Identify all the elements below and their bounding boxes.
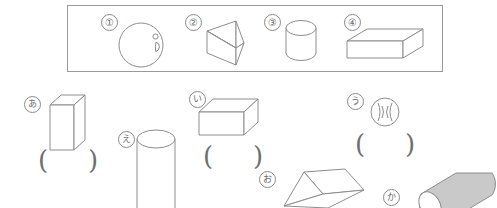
question-label-e[interactable]: え xyxy=(118,131,135,148)
answer-paren-open-a: ( xyxy=(38,147,48,173)
answer-paren-close-i: ) xyxy=(253,143,263,169)
bank-shape-rectangular-prism xyxy=(345,28,429,70)
answer-input-i[interactable] xyxy=(215,148,253,168)
answer-paren-open-u: ( xyxy=(355,131,365,157)
answer-input-u[interactable] xyxy=(367,136,405,156)
question-shape-shaded-cylinder xyxy=(400,172,497,208)
question-shape-tall-cylinder xyxy=(134,127,182,208)
question-shape-rectangular-prism xyxy=(196,97,266,145)
question-label-u[interactable]: う xyxy=(347,93,364,110)
question-label-a[interactable]: あ xyxy=(24,96,41,113)
worksheet-canvas: ① ② ③ ④ あ xyxy=(0,0,497,208)
bank-label-2[interactable]: ② xyxy=(185,14,202,31)
bank-shape-cylinder xyxy=(283,20,325,66)
answer-paren-open-i: ( xyxy=(203,143,213,169)
answer-paren-close-u: ) xyxy=(405,131,415,157)
answer-input-a[interactable] xyxy=(50,152,88,172)
question-shape-triangular-prism xyxy=(282,168,366,208)
bank-shape-sphere xyxy=(116,21,172,69)
question-label-ka[interactable]: か xyxy=(383,189,400,206)
question-shape-ball-sphere xyxy=(369,96,403,130)
answer-paren-close-a: ) xyxy=(88,147,98,173)
bank-label-3[interactable]: ③ xyxy=(264,14,281,31)
question-label-o[interactable]: お xyxy=(259,171,276,188)
bank-shape-triangular-prism xyxy=(203,18,259,66)
